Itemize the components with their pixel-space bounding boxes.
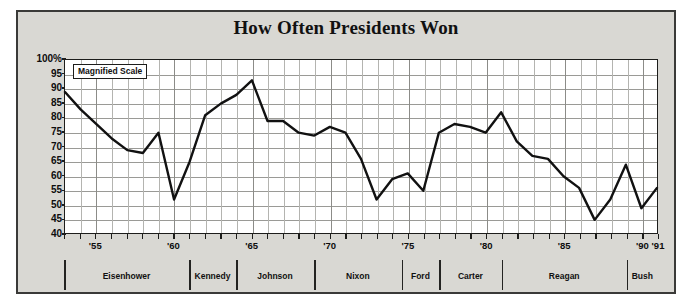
x-axis-tick [80,234,81,239]
x-axis-tick [502,234,503,239]
x-axis-tick [345,234,346,239]
x-axis-tick [549,234,550,239]
x-axis-tick [205,234,206,239]
series-line-chart [65,60,657,234]
y-axis-tick-label: 55 [22,185,62,195]
president-band-label: Bush [632,271,653,281]
x-axis-tick [220,234,221,239]
x-axis-tick [314,234,315,239]
president-band-label: Carter [458,271,483,281]
y-axis-tick-label: 70 [22,142,62,152]
magnified-scale-annotation: Magnified Scale [73,64,147,79]
x-axis-tick-label: '55 [89,240,102,251]
chart-figure: How Often Presidents Won 100%95908580757… [16,10,676,294]
y-axis-tick-label: 60 [22,171,62,181]
page-title: How Often Presidents Won [18,17,674,39]
x-axis-tick [267,234,268,239]
x-axis: '55'60'65'70'75'80'85'90'91 [64,234,658,256]
data-series-line [65,80,657,220]
y-axis: 100%959085807570656055504540 [18,59,62,234]
president-band-divider [502,260,504,290]
president-band-divider [189,260,191,290]
y-axis-tick-label: 65 [22,156,62,166]
y-axis-tick-label: 100% [22,54,62,64]
president-band-divider [64,260,66,290]
x-axis-tick [595,234,596,239]
x-axis-tick [236,234,237,239]
president-band-label: Eisenhower [103,271,151,281]
x-axis-tick-label: '90 [636,240,649,251]
x-axis-tick [283,234,284,239]
president-band-label: Kennedy [195,271,231,281]
y-axis-tick-label: 40 [22,229,62,239]
x-axis-tick [517,234,518,239]
x-axis-tick [424,234,425,239]
president-band-divider [402,260,404,290]
president-band-label: Ford [411,271,430,281]
x-axis-tick [611,234,612,239]
president-band-label: Reagan [549,271,580,281]
x-axis-tick [439,234,440,239]
x-axis-tick [173,234,174,239]
x-axis-tick-label: '91 [652,240,665,251]
x-axis-tick [486,234,487,239]
x-axis-tick [111,234,112,239]
x-axis-tick [627,234,628,239]
y-axis-tick-label: 95 [22,69,62,79]
plot-area: Magnified Scale [64,59,658,234]
president-band-divider [627,260,629,290]
x-axis-tick-label: '70 [323,240,336,251]
x-axis-tick [580,234,581,239]
y-axis-tick-label: 80 [22,112,62,122]
president-band-divider [439,260,441,290]
x-axis-tick [392,234,393,239]
president-band-axis: EisenhowerKennedyJohnsonNixonFordCarterR… [64,260,658,290]
x-axis-tick [533,234,534,239]
president-band-divider [236,260,238,290]
x-axis-tick [298,234,299,239]
x-axis-tick [189,234,190,239]
x-axis-tick [252,234,253,239]
y-axis-tick-label: 90 [22,83,62,93]
x-axis-tick-label: '60 [167,240,180,251]
x-axis-tick-label: '85 [558,240,571,251]
y-axis-tick-label: 75 [22,127,62,137]
president-band-divider [314,260,316,290]
x-axis-tick [455,234,456,239]
x-axis-tick [361,234,362,239]
x-axis-tick [377,234,378,239]
x-axis-tick-label: '80 [480,240,493,251]
y-axis-tick-label: 85 [22,98,62,108]
x-axis-tick [658,234,659,239]
x-axis-tick [158,234,159,239]
president-band-label: Nixon [346,271,370,281]
y-axis-tick-label: 50 [22,200,62,210]
x-axis-tick [64,234,65,239]
x-axis-tick [408,234,409,239]
x-axis-tick [470,234,471,239]
president-band-label: Johnson [257,271,292,281]
x-axis-tick-label: '65 [245,240,258,251]
x-axis-tick [142,234,143,239]
x-axis-tick [330,234,331,239]
x-axis-tick [564,234,565,239]
x-axis-tick-label: '75 [401,240,414,251]
x-axis-tick [642,234,643,239]
x-axis-tick [95,234,96,239]
x-axis-tick [127,234,128,239]
y-axis-tick-label: 45 [22,214,62,224]
